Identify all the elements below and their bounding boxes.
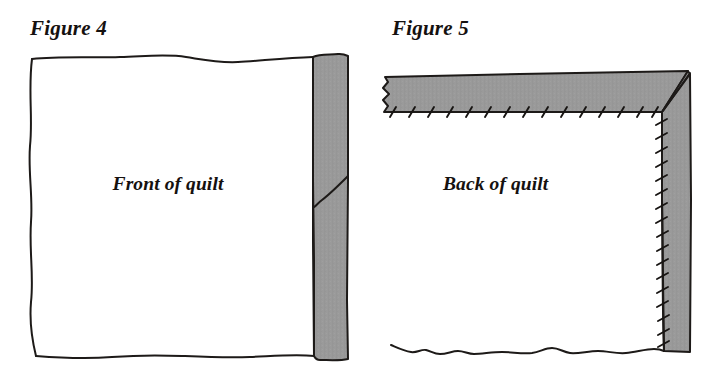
figure-4-label-front-of-quilt: Front of quilt bbox=[112, 173, 224, 194]
figure-4-caption: Figure 4 bbox=[29, 16, 107, 40]
figure-5-top-binding-band bbox=[383, 71, 688, 112]
figure-5-right-binding-band bbox=[662, 74, 691, 352]
figure-5-quilt-body bbox=[383, 112, 662, 352]
figure-5-caption: Figure 5 bbox=[391, 16, 469, 40]
figure-4-binding-strip bbox=[313, 54, 348, 360]
figure-5-label-back-of-quilt: Back of quilt bbox=[442, 173, 549, 194]
figure-4-quilt-body bbox=[31, 55, 314, 357]
figure-4: Figure 4 Front of quilt bbox=[29, 16, 348, 360]
quilt-binding-figures: Figure 4 Front of quilt Figure 5 bbox=[0, 0, 715, 391]
